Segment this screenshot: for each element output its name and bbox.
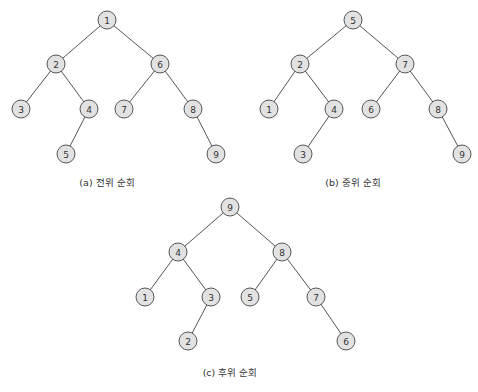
node-label: 3 <box>208 293 214 303</box>
binary-tree-traversal-diagrams: 126347859(a) 전위 순회 527146839(b) 중위 순회 94… <box>0 0 478 392</box>
tree-node: 1 <box>136 288 154 306</box>
node-label: 9 <box>213 150 219 160</box>
tree-edge <box>300 20 353 64</box>
node-label: 7 <box>313 293 319 303</box>
tree-node: 1 <box>260 100 278 118</box>
node-label: 7 <box>121 105 127 115</box>
tree-node: 5 <box>241 288 259 306</box>
tree-edge <box>56 20 107 64</box>
node-label: 4 <box>86 105 92 115</box>
node-label: 2 <box>53 60 59 70</box>
node-label: 6 <box>343 337 349 347</box>
node-label: 3 <box>18 105 24 115</box>
tree-node: 9 <box>453 145 471 163</box>
tree-edge <box>178 207 230 252</box>
tree-node: 2 <box>47 55 65 73</box>
node-label: 6 <box>368 105 374 115</box>
tree-node: 8 <box>429 100 447 118</box>
diagram-caption: (a) 전위 순회 <box>79 177 134 188</box>
node-label: 8 <box>279 248 285 258</box>
tree-node: 3 <box>294 145 312 163</box>
node-label: 1 <box>142 293 148 303</box>
edges <box>21 20 216 154</box>
tree-edge <box>353 20 405 64</box>
tree-preorder: 126347859(a) 전위 순회 <box>12 11 225 188</box>
tree-edge <box>230 207 282 252</box>
tree-node: 4 <box>325 100 343 118</box>
tree-postorder: 948135726(c) 후위 순회 <box>136 198 355 378</box>
tree-inorder: 527146839(b) 중위 순회 <box>260 11 471 188</box>
tree-node: 4 <box>80 100 98 118</box>
tree-node: 2 <box>179 332 197 350</box>
tree-node: 9 <box>207 145 225 163</box>
node-label: 6 <box>157 60 163 70</box>
tree-node: 5 <box>57 145 75 163</box>
tree-node: 8 <box>273 243 291 261</box>
node-label: 2 <box>297 60 303 70</box>
tree-node: 6 <box>337 332 355 350</box>
tree-node: 6 <box>151 55 169 73</box>
tree-node: 6 <box>362 100 380 118</box>
diagram-caption: (c) 후위 순회 <box>203 367 258 378</box>
tree-node: 2 <box>291 55 309 73</box>
tree-node: 5 <box>344 11 362 29</box>
tree-node: 8 <box>184 100 202 118</box>
tree-node: 7 <box>396 55 414 73</box>
node-label: 4 <box>331 105 337 115</box>
node-label: 5 <box>63 150 69 160</box>
tree-node: 1 <box>98 11 116 29</box>
node-label: 3 <box>300 150 306 160</box>
tree-node: 7 <box>307 288 325 306</box>
node-label: 8 <box>190 105 196 115</box>
node-label: 9 <box>227 203 233 213</box>
node-label: 1 <box>104 16 110 26</box>
tree-node: 3 <box>202 288 220 306</box>
diagram-caption: (b) 중위 순회 <box>325 177 380 188</box>
node-label: 5 <box>247 293 253 303</box>
node-label: 5 <box>350 16 356 26</box>
node-label: 2 <box>185 337 191 347</box>
tree-node: 7 <box>115 100 133 118</box>
node-label: 4 <box>175 248 181 258</box>
tree-node: 3 <box>12 100 30 118</box>
node-label: 1 <box>266 105 272 115</box>
tree-node: 4 <box>169 243 187 261</box>
node-label: 9 <box>459 150 465 160</box>
node-label: 7 <box>402 60 408 70</box>
tree-node: 9 <box>221 198 239 216</box>
edges <box>269 20 462 154</box>
node-label: 8 <box>435 105 441 115</box>
edges <box>145 207 346 341</box>
tree-edge <box>107 20 160 64</box>
